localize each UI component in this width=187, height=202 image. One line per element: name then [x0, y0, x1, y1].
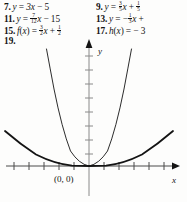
exercise-9: 9.y = 35x + 15	[96, 1, 140, 13]
y-axis	[85, 39, 93, 196]
exercise-number: 9.	[96, 2, 103, 12]
fraction-one-fifth: 15	[136, 1, 140, 13]
origin-point-label: (0, 0)	[54, 174, 74, 184]
fraction-three-fifths: 35	[119, 1, 123, 13]
exercise-number: 11.	[4, 14, 15, 24]
exercise-equation: y = −13x +	[109, 14, 144, 24]
exercise-13: 13.y = −13x +	[96, 13, 144, 25]
coordinate-plane-svg: y x (0, 0)	[0, 36, 187, 202]
exercise-11: 11.y = 712x − 15	[4, 13, 60, 25]
exercise-7: 7.y = 3x − 5	[4, 1, 49, 13]
graph-figure: 19.	[0, 36, 187, 202]
y-axis-label: y	[97, 46, 102, 56]
exercise-number: 17.	[96, 26, 107, 36]
exercise-equation: f(x) = 32x + 12	[17, 26, 61, 36]
exercise-number: 15.	[4, 26, 15, 36]
exercise-row: 11.y = 712x − 15 13.y = −13x +	[0, 13, 187, 25]
fraction-one-third: 13	[128, 13, 132, 25]
exercise-number: 7.	[4, 2, 11, 12]
exercise-number: 13.	[96, 14, 107, 24]
fraction-seven-twelfths: 712	[30, 13, 36, 25]
exercise-equation: h(x) = − 3	[109, 26, 145, 36]
exercise-equation: y = 35x + 15	[105, 2, 141, 12]
exercise-equation: y = 3x − 5	[13, 2, 49, 12]
exercise-page: 7.y = 3x − 5 9.y = 35x + 15 11.y = 712x …	[0, 0, 187, 202]
exercise-equation: y = 712x − 15	[17, 14, 60, 24]
x-axis-label: x	[171, 175, 176, 185]
x-axis-arrow	[172, 163, 180, 170]
exercise-row: 7.y = 3x − 5 9.y = 35x + 15	[0, 1, 187, 13]
y-axis-arrow	[86, 39, 93, 48]
